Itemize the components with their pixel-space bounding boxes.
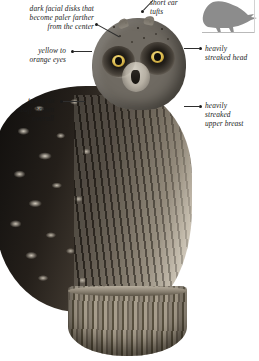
callout-overall-color-leader xyxy=(63,101,85,102)
silhouette-vertical-rule xyxy=(254,0,255,33)
owl-eye-right xyxy=(151,51,164,63)
owl-eye-left xyxy=(112,55,125,67)
callout-streaked-breast-leader xyxy=(184,106,200,107)
ear-tuft-right xyxy=(143,15,155,26)
owl-wing-streaking xyxy=(74,95,192,307)
owl-pupil-left xyxy=(115,57,122,65)
owl-pupil-right xyxy=(154,53,161,61)
perch-top-surface xyxy=(68,286,187,296)
field-guide-plate: dark facial disks that become paler fart… xyxy=(0,0,259,361)
callout-streaked-head-leader xyxy=(184,48,200,49)
owl-beak xyxy=(131,70,140,84)
callout-facial-disks-label: dark facial disks that become paler fart… xyxy=(6,4,94,32)
silhouette-baseline xyxy=(202,32,254,33)
owl-perch-stump xyxy=(68,286,187,356)
callout-eyes-leader xyxy=(74,51,92,52)
owl-silhouette-inset xyxy=(196,0,259,37)
callout-streaked-head-label: heavily streaked head xyxy=(205,44,259,62)
callout-eyes-label: yellow to orange eyes xyxy=(8,46,66,64)
callout-streaked-breast-label: heavily streaked upper breast xyxy=(205,101,259,129)
callout-overall-color-label: tawny to buff-brown overall xyxy=(2,96,54,124)
